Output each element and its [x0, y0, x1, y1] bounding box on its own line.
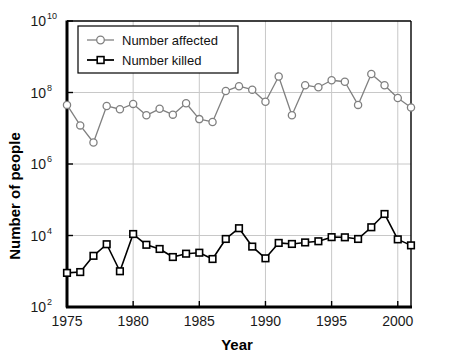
x-tick-label: 1975 — [51, 313, 82, 329]
data-point-marker — [143, 112, 150, 119]
y-tick-label: 10 — [30, 85, 46, 101]
data-point-marker — [130, 100, 137, 107]
y-axis-tick-labels: 1021041061081010 — [30, 11, 57, 315]
data-point-marker — [394, 236, 401, 243]
data-point-marker — [315, 84, 322, 91]
y-tick-label: 10 — [30, 299, 46, 315]
data-point-marker — [315, 238, 322, 245]
y-tick-exponent: 10 — [47, 11, 57, 21]
data-point-marker — [183, 250, 190, 257]
data-point-marker — [354, 101, 361, 108]
data-point-marker — [64, 270, 71, 277]
series-line — [67, 214, 411, 273]
y-tick-label: 10 — [30, 156, 46, 172]
chart-figure: 1021041061081010 19751980198519901995200… — [0, 0, 451, 357]
y-tick-exponent: 6 — [47, 154, 52, 164]
y-tick-exponent: 4 — [47, 226, 52, 236]
data-point-marker — [262, 255, 269, 262]
data-point-marker — [77, 122, 84, 129]
y-tick-label: 10 — [30, 228, 46, 244]
x-tick-label: 1980 — [118, 313, 149, 329]
data-point-marker — [262, 98, 269, 105]
data-point-marker — [63, 101, 70, 108]
series-killed — [64, 211, 415, 277]
data-point-marker — [275, 73, 282, 80]
data-point-marker — [249, 86, 256, 93]
data-point-marker — [116, 106, 123, 113]
data-point-marker — [368, 70, 375, 77]
y-tick-label: 10 — [30, 13, 46, 29]
data-point-marker — [90, 139, 97, 146]
x-tick-label: 2000 — [382, 313, 413, 329]
data-point-marker — [355, 236, 362, 243]
data-point-marker — [103, 241, 110, 248]
x-axis-tick-labels: 197519801985199019952000 — [51, 313, 413, 329]
data-point-marker — [222, 87, 229, 94]
data-point-marker — [328, 77, 335, 84]
y-tick-exponent: 8 — [47, 83, 52, 93]
x-tick-label: 1990 — [250, 313, 281, 329]
data-point-marker — [117, 268, 124, 275]
data-point-marker — [249, 243, 256, 250]
data-point-marker — [275, 240, 282, 247]
data-point-marker — [209, 118, 216, 125]
data-point-marker — [288, 112, 295, 119]
data-point-marker — [302, 239, 309, 246]
data-point-marker — [170, 254, 177, 261]
data-point-marker — [156, 105, 163, 112]
x-tick-label: 1985 — [184, 313, 215, 329]
data-point-marker — [182, 100, 189, 107]
data-point-marker — [103, 102, 110, 109]
x-axis-title: Year — [221, 336, 253, 353]
data-point-marker — [90, 253, 97, 260]
data-point-marker — [143, 241, 150, 248]
data-point-marker — [235, 83, 242, 90]
data-point-marker — [196, 249, 203, 256]
series-affected — [63, 70, 414, 146]
y-tick-exponent: 2 — [47, 297, 52, 307]
data-point-marker — [328, 234, 335, 241]
legend-marker-circle-icon — [97, 36, 105, 44]
data-point-marker — [196, 116, 203, 123]
data-point-marker — [236, 225, 243, 232]
data-point-marker — [289, 241, 296, 248]
data-point-marker — [302, 82, 309, 89]
data-point-marker — [394, 94, 401, 101]
data-point-marker — [407, 104, 414, 111]
data-point-marker — [77, 269, 84, 276]
data-point-marker — [130, 231, 137, 238]
data-point-marker — [341, 78, 348, 85]
data-series-layer — [63, 70, 414, 276]
x-tick-label: 1995 — [316, 313, 347, 329]
data-point-marker — [408, 242, 415, 249]
data-point-marker — [342, 234, 349, 241]
data-point-marker — [156, 246, 163, 253]
legend-item-label: Number affected — [122, 33, 218, 48]
data-point-marker — [209, 256, 216, 263]
chart-legend: Number affectedNumber killed — [78, 26, 238, 73]
data-point-marker — [368, 224, 375, 231]
legend-marker-square-icon — [97, 57, 104, 64]
legend-item-label: Number killed — [122, 53, 201, 68]
data-point-marker — [222, 236, 229, 243]
data-point-marker — [381, 211, 388, 218]
data-point-marker — [169, 111, 176, 118]
line-chart: 1021041061081010 19751980198519901995200… — [0, 0, 451, 357]
y-axis-title: Number of people — [6, 132, 23, 260]
data-point-marker — [381, 82, 388, 89]
